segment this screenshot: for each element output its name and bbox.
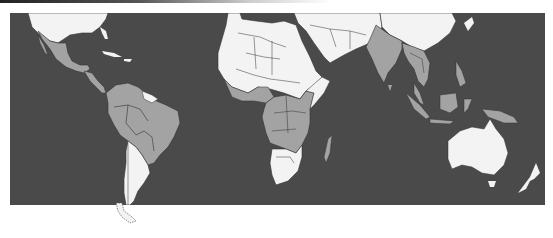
region-tierra-del-fuego [112,203,142,227]
map-canvas [10,13,545,205]
world-map [10,13,545,205]
top-edge-bar [0,0,553,3]
